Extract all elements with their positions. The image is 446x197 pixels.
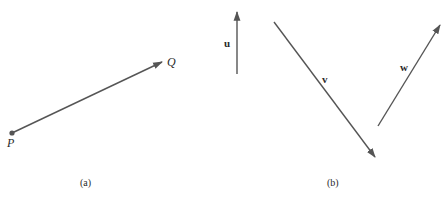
point-q-label: Q [167,56,176,68]
point-p-dot [9,130,14,135]
vector-pq [9,62,162,136]
caption-a: (a) [80,178,91,188]
vector-u-label: u [224,38,230,49]
caption-b: (b) [327,178,339,188]
vector-w [378,25,440,126]
vector-w-label: w [400,62,408,73]
vector-v-label: v [322,74,328,85]
vector-diagram [0,0,446,197]
point-p-label: P [7,137,14,149]
vector-v [274,22,375,157]
